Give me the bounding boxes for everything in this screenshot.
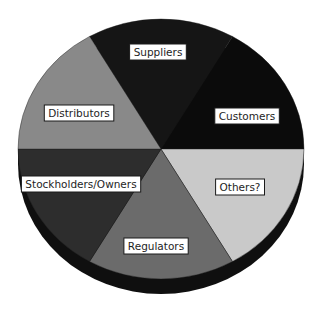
slice-label-text: Others? [220,181,261,193]
slice-label-text: Suppliers [134,46,183,58]
slice-label-distributors: Distributors [44,105,114,121]
slice-label-text: Regulators [128,240,184,252]
slice-label-others: Others? [216,179,265,195]
slice-label-text: Customers [219,110,275,122]
slice-label-regulators: Regulators [124,238,188,254]
slice-label-customers: Customers [215,108,279,124]
pie-chart: SuppliersCustomersOthers?RegulatorsStock… [0,0,320,309]
slice-label-text: Distributors [48,107,109,119]
slice-label-text: Stockholders/Owners [25,178,136,190]
slice-label-suppliers: Suppliers [130,44,187,60]
slice-label-stockholders-owners: Stockholders/Owners [21,176,140,192]
